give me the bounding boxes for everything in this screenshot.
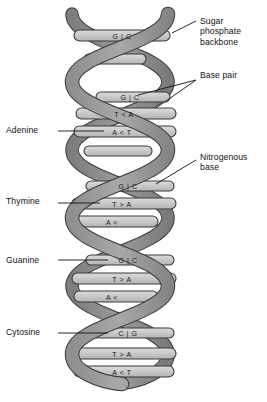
- base-pair-label: T < A: [114, 111, 133, 118]
- base-pair-label: G | C: [118, 257, 137, 265]
- leader-line-sugar-backbone: [172, 21, 196, 33]
- callout-cytosine: Cytosine: [6, 327, 64, 337]
- base-pair-label: C | G: [118, 330, 137, 338]
- base-pair-label: T > A: [112, 276, 131, 283]
- base-pair-label: T > A: [112, 201, 131, 208]
- base-pair-label: G | C: [112, 33, 131, 41]
- callout-thymine: Thymine: [6, 196, 64, 206]
- rung: [84, 146, 152, 156]
- base-pair-label: A < T: [112, 129, 132, 136]
- base-pair-label: A <: [106, 294, 118, 301]
- base-pair-label: A < T: [112, 369, 132, 376]
- dna-diagram-page: G | C G | C T < A A < T G | C T > A A < …: [0, 0, 267, 402]
- callout-guanine: Guanine: [6, 255, 64, 265]
- callout-nitrogenous-base: Nitrogenous base: [200, 152, 264, 173]
- callout-adenine: Adenine: [6, 125, 64, 135]
- base-pair-label: A <: [106, 219, 118, 226]
- base-pair-label: T > A: [112, 351, 131, 358]
- base-pair-label: G | C: [118, 183, 137, 191]
- base-pair-label: G | C: [120, 94, 139, 102]
- callout-base-pair: Base pair: [200, 70, 264, 80]
- callout-sugar-phosphate-backbone: Sugar phosphate backbone: [200, 16, 264, 47]
